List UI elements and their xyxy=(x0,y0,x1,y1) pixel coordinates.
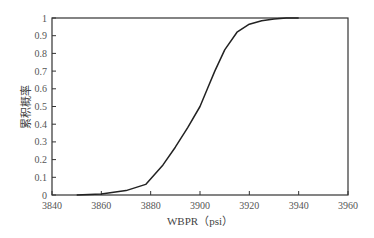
x-tick-label: 3960 xyxy=(338,200,358,211)
x-axis-label: WBPR（psi） xyxy=(167,215,233,227)
x-tick-label: 3920 xyxy=(239,200,259,211)
y-tick-label: 0.5 xyxy=(35,101,48,112)
cdf-curve xyxy=(77,18,299,195)
cdf-plot: 384038603880390039203940396000.10.20.30.… xyxy=(0,0,374,238)
y-tick-label: 0 xyxy=(42,190,47,201)
chart: 384038603880390039203940396000.10.20.30.… xyxy=(0,0,374,238)
y-tick-label: 0.8 xyxy=(35,48,48,59)
x-tick-label: 3900 xyxy=(190,200,210,211)
y-tick-label: 0.6 xyxy=(35,83,48,94)
x-tick-label: 3880 xyxy=(141,200,161,211)
y-tick-label: 0.3 xyxy=(35,136,48,147)
y-tick-label: 0.4 xyxy=(35,119,48,130)
x-tick-label: 3860 xyxy=(91,200,111,211)
x-tick-label: 3940 xyxy=(289,200,309,211)
y-tick-label: 0.2 xyxy=(35,154,48,165)
y-tick-label: 1 xyxy=(42,13,47,24)
y-axis-label: 累积概率 xyxy=(19,85,32,129)
x-tick-label: 3840 xyxy=(42,200,62,211)
y-tick-label: 0.9 xyxy=(35,30,48,41)
y-tick-label: 0.7 xyxy=(35,66,48,77)
y-tick-label: 0.1 xyxy=(35,172,48,183)
